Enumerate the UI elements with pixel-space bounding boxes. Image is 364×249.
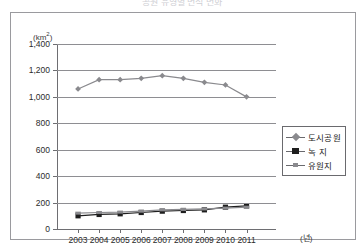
x-tick-label: 2011 bbox=[237, 235, 255, 245]
data-point-diamond bbox=[117, 77, 123, 83]
x-tick-mark bbox=[78, 229, 79, 233]
plot-area: 02004006008001,0001,2001,400200320042005… bbox=[57, 44, 276, 229]
legend-label-yuwonji: 유원지 bbox=[308, 159, 333, 171]
x-tick-label: 2003 bbox=[69, 235, 88, 245]
x-tick-label: 2005 bbox=[111, 235, 130, 245]
y-tick-label: 1,400 bbox=[29, 39, 50, 49]
square-marker-icon bbox=[286, 146, 305, 156]
legend-label-dosigongwon: 도시공원 bbox=[308, 131, 341, 143]
x-tick-label: 2004 bbox=[90, 235, 109, 245]
y-axis-unit-close: ) bbox=[50, 33, 53, 42]
diamond-marker-icon bbox=[286, 132, 305, 142]
chart-frame: (km2) (년) 02004006008001,0001,2001,40020… bbox=[10, 12, 356, 240]
data-point-cross bbox=[181, 208, 187, 211]
data-point-diamond bbox=[202, 79, 208, 85]
x-tick-mark bbox=[162, 229, 163, 233]
y-tick-label: 0 bbox=[45, 224, 50, 234]
x-tick-label: 2009 bbox=[195, 235, 214, 245]
chart-title-text: 공원 유형별 면적 변화 bbox=[0, 0, 364, 8]
y-tick-mark bbox=[53, 176, 57, 177]
gridline bbox=[57, 97, 276, 98]
x-tick-mark bbox=[204, 229, 205, 233]
x-axis-line bbox=[57, 229, 276, 230]
gridline bbox=[57, 70, 276, 71]
data-point-cross bbox=[202, 207, 208, 210]
y-tick-mark bbox=[53, 97, 57, 98]
chart-screenshot: 공원 유형별 면적 변화 (km2) (년) 02004006008001,00… bbox=[0, 0, 364, 249]
data-point-cross bbox=[96, 211, 102, 214]
chart-legend: 도시공원 녹 지 유원지 bbox=[282, 126, 346, 176]
data-point-diamond bbox=[75, 86, 81, 92]
x-tick-mark bbox=[225, 229, 226, 233]
cross-marker-icon bbox=[286, 160, 305, 170]
gridline bbox=[57, 150, 276, 151]
x-tick-mark bbox=[183, 229, 184, 233]
y-tick-label: 1,200 bbox=[29, 65, 50, 75]
data-point-diamond bbox=[180, 75, 186, 81]
data-point-diamond bbox=[223, 82, 229, 88]
data-point-cross bbox=[159, 208, 165, 211]
y-tick-label: 1,000 bbox=[29, 92, 50, 102]
x-tick-label: 2007 bbox=[153, 235, 172, 245]
x-tick-label: 2010 bbox=[216, 235, 235, 245]
data-point-cross bbox=[117, 211, 123, 214]
gridline bbox=[57, 44, 276, 45]
x-tick-label: 2006 bbox=[132, 235, 151, 245]
y-tick-mark bbox=[53, 203, 57, 204]
x-tick-mark bbox=[99, 229, 100, 233]
gridline bbox=[57, 203, 276, 204]
legend-label-nokji: 녹 지 bbox=[308, 145, 327, 157]
x-tick-label: 2008 bbox=[174, 235, 193, 245]
y-tick-label: 200 bbox=[36, 198, 50, 208]
y-tick-mark bbox=[53, 123, 57, 124]
x-tick-mark bbox=[141, 229, 142, 233]
gridline bbox=[57, 123, 276, 124]
y-tick-label: 600 bbox=[36, 145, 50, 155]
data-point-diamond bbox=[96, 77, 102, 83]
legend-item-dosigongwon[interactable]: 도시공원 bbox=[286, 130, 341, 144]
data-point-cross bbox=[138, 210, 144, 213]
legend-item-yuwonji[interactable]: 유원지 bbox=[286, 158, 341, 172]
series-line-diamond bbox=[78, 76, 246, 97]
data-point-diamond bbox=[138, 75, 144, 81]
y-tick-mark bbox=[53, 44, 57, 45]
y-tick-mark bbox=[53, 229, 57, 230]
legend-item-nokji[interactable]: 녹 지 bbox=[286, 144, 341, 158]
data-point-cross bbox=[223, 207, 229, 210]
x-tick-mark bbox=[247, 229, 248, 233]
data-point-cross bbox=[244, 206, 250, 209]
y-tick-label: 400 bbox=[36, 171, 50, 181]
x-tick-mark bbox=[120, 229, 121, 233]
data-point-cross bbox=[75, 212, 81, 215]
y-tick-mark bbox=[53, 70, 57, 71]
y-tick-label: 800 bbox=[36, 118, 50, 128]
y-tick-mark bbox=[53, 150, 57, 151]
series-lines bbox=[57, 44, 276, 229]
chart-title-clipped: 공원 유형별 면적 변화 bbox=[0, 0, 364, 9]
data-point-diamond bbox=[159, 73, 165, 79]
x-axis-unit-label: (년) bbox=[300, 232, 312, 243]
gridline bbox=[57, 176, 276, 177]
